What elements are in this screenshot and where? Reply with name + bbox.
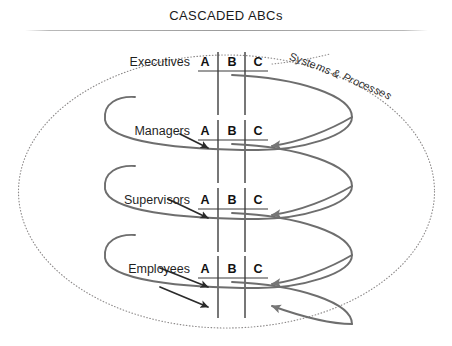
cascade-arc-managers-to-supervisors: [105, 144, 352, 219]
supervisors-column-a: A: [198, 193, 212, 207]
cascade-diagram: [0, 0, 452, 346]
level-label-managers: Managers: [86, 124, 190, 138]
executives-column-c: C: [251, 55, 265, 69]
level-label-supervisors: Supervisors: [86, 193, 190, 207]
slide-canvas: CASCADED ABCs: [0, 0, 452, 346]
down-arrows: [160, 134, 208, 307]
managers-column-b: B: [225, 124, 239, 138]
level-label-executives: Executives: [86, 55, 190, 69]
managers-column-a: A: [198, 124, 212, 138]
supervisors-column-c: C: [251, 193, 265, 207]
employees-column-c: C: [251, 262, 265, 276]
employees-column-a: A: [198, 262, 212, 276]
managers-column-c: C: [251, 124, 265, 138]
executives-column-a: A: [198, 55, 212, 69]
executives-column-b: B: [225, 55, 239, 69]
employees-column-b: B: [225, 262, 239, 276]
level-underlines: [198, 71, 268, 278]
cascade-arc-supervisors-to-employees: [105, 213, 352, 288]
level-label-employees: Employees: [86, 262, 190, 276]
cascade-arrow-employees-outflow: [272, 306, 352, 324]
down-arrow-employees-outflow: [160, 287, 208, 307]
supervisors-column-b: B: [225, 193, 239, 207]
cascade-arc-executives-to-managers: [105, 75, 352, 150]
